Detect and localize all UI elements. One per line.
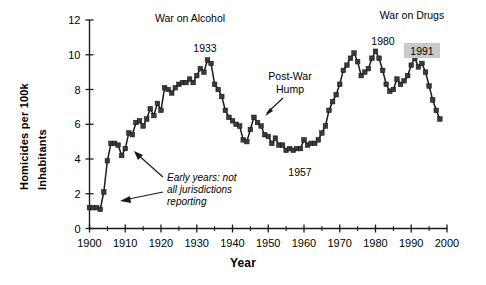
early-years-note-line2: all jurisdictions xyxy=(167,184,232,195)
data-point xyxy=(216,87,221,92)
data-point xyxy=(266,134,271,139)
data-point xyxy=(191,80,196,85)
y-tick-label-4: 4 xyxy=(74,153,80,165)
data-point xyxy=(219,94,224,99)
data-point xyxy=(141,124,146,129)
x-axis-tick-labels: 1900191019201930194019501960197019801990… xyxy=(77,237,459,249)
data-point xyxy=(355,59,360,64)
x-tick-label-1930: 1930 xyxy=(185,237,209,249)
data-point xyxy=(123,146,128,151)
x-tick-label-1960: 1960 xyxy=(292,237,316,249)
data-point xyxy=(420,61,425,66)
x-tick-label-1990: 1990 xyxy=(399,237,423,249)
homicide-rate-chart: 024681012 190019101920193019401950196019… xyxy=(0,0,486,285)
data-point xyxy=(280,143,285,148)
x-tick-label-1900: 1900 xyxy=(77,237,101,249)
data-point xyxy=(373,49,378,54)
x-tick-label-1910: 1910 xyxy=(113,237,137,249)
data-point xyxy=(194,73,199,78)
data-point xyxy=(380,68,385,73)
x-tick-label-1970: 1970 xyxy=(328,237,352,249)
x-tick-label-2000: 2000 xyxy=(435,237,459,249)
early-years-note-line1: Early years: not xyxy=(167,172,238,183)
data-point xyxy=(159,108,164,113)
data-point xyxy=(427,84,432,89)
post-war-hump-label: Post-War xyxy=(268,70,312,82)
x-tick-label-1950: 1950 xyxy=(256,237,280,249)
data-point xyxy=(130,132,135,137)
y-axis-title: Homicides per 100k xyxy=(18,82,30,190)
peak-1933-label: 1933 xyxy=(193,42,217,54)
y-axis-title-line2: Inhabitants xyxy=(36,129,48,190)
data-point xyxy=(409,63,414,68)
data-point xyxy=(430,98,435,103)
post-war-hump-label-2: Hump xyxy=(276,83,304,95)
data-point xyxy=(391,87,396,92)
peak-1980-label: 1980 xyxy=(371,35,395,47)
data-point xyxy=(148,106,153,111)
data-point xyxy=(102,190,107,195)
data-point xyxy=(273,136,278,141)
y-tick-label-10: 10 xyxy=(68,49,80,61)
data-point xyxy=(348,56,353,61)
chart-canvas: 024681012 190019101920193019401950196019… xyxy=(0,0,486,285)
data-point xyxy=(209,61,214,66)
data-point xyxy=(341,68,346,73)
data-point xyxy=(223,108,228,113)
x-tick-label-1920: 1920 xyxy=(149,237,173,249)
war-on-drugs-label: War on Drugs xyxy=(380,9,444,21)
data-point xyxy=(270,141,275,146)
data-point xyxy=(334,92,339,97)
data-point xyxy=(302,138,307,143)
y-tick-label-6: 6 xyxy=(74,118,80,130)
data-point xyxy=(116,143,121,148)
x-tick-label-1940: 1940 xyxy=(220,237,244,249)
trough-1957-label: 1957 xyxy=(288,166,312,178)
data-point xyxy=(119,153,124,158)
data-point xyxy=(298,146,303,151)
data-point xyxy=(402,79,407,84)
data-point xyxy=(370,56,375,61)
x-axis-title: Year xyxy=(230,256,256,270)
y-tick-label-8: 8 xyxy=(74,84,80,96)
data-point xyxy=(320,131,325,136)
data-point xyxy=(237,124,242,129)
war-on-alcohol-label: War on Alcohol xyxy=(155,12,225,24)
data-point xyxy=(137,118,142,123)
data-point xyxy=(337,82,342,87)
early-years-note-line3: reporting xyxy=(167,196,207,207)
data-point xyxy=(252,115,257,120)
data-point xyxy=(245,139,250,144)
data-point xyxy=(352,51,357,56)
y-tick-label-2: 2 xyxy=(74,188,80,200)
peak-1991-label: 1991 xyxy=(410,45,434,57)
data-point xyxy=(248,127,253,132)
data-point xyxy=(434,108,439,113)
data-point xyxy=(423,70,428,75)
data-point xyxy=(316,138,321,143)
data-point xyxy=(405,73,410,78)
data-point xyxy=(259,124,264,129)
data-point xyxy=(98,207,103,212)
data-point xyxy=(330,99,335,104)
data-point xyxy=(366,66,371,71)
data-point xyxy=(323,124,328,129)
x-tick-label-1980: 1980 xyxy=(363,237,387,249)
data-point xyxy=(144,117,149,122)
data-point xyxy=(327,108,332,113)
y-tick-label-0: 0 xyxy=(74,223,80,235)
data-point xyxy=(169,91,174,96)
data-point xyxy=(395,77,400,82)
data-point xyxy=(202,70,207,75)
data-point xyxy=(377,56,382,61)
data-point xyxy=(155,101,160,106)
data-point xyxy=(438,117,443,122)
y-tick-label-12: 12 xyxy=(68,14,80,26)
data-point xyxy=(152,113,157,118)
data-point xyxy=(345,63,350,68)
data-point xyxy=(105,158,110,163)
data-point xyxy=(384,82,389,87)
data-point xyxy=(212,82,217,87)
